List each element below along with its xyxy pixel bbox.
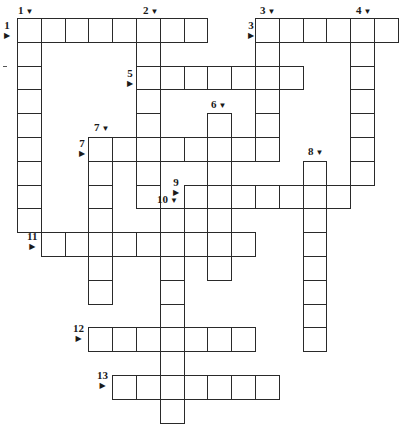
grid-cell[interactable] bbox=[160, 208, 185, 233]
grid-cell[interactable] bbox=[255, 137, 280, 162]
grid-cell[interactable] bbox=[279, 66, 304, 91]
grid-cell[interactable] bbox=[231, 137, 256, 162]
grid-cell[interactable] bbox=[207, 208, 232, 233]
grid-cell[interactable] bbox=[136, 327, 161, 352]
grid-cell[interactable] bbox=[88, 208, 113, 233]
grid-cell[interactable] bbox=[41, 232, 66, 257]
grid-cell[interactable] bbox=[207, 161, 232, 186]
grid-cell[interactable] bbox=[303, 304, 328, 329]
grid-cell[interactable] bbox=[17, 66, 42, 91]
grid-cell[interactable] bbox=[255, 185, 280, 210]
grid-cell[interactable] bbox=[17, 89, 42, 114]
grid-cell[interactable] bbox=[65, 18, 90, 43]
grid-cell[interactable] bbox=[184, 375, 209, 400]
grid-cell[interactable] bbox=[136, 66, 161, 91]
grid-cell[interactable] bbox=[160, 66, 185, 91]
grid-cell[interactable] bbox=[184, 66, 209, 91]
grid-cell[interactable] bbox=[112, 18, 137, 43]
grid-cell[interactable] bbox=[184, 18, 209, 43]
grid-cell[interactable] bbox=[17, 137, 42, 162]
grid-cell[interactable] bbox=[350, 161, 375, 186]
grid-cell[interactable] bbox=[207, 256, 232, 281]
grid-cell[interactable] bbox=[207, 137, 232, 162]
grid-cell[interactable] bbox=[303, 256, 328, 281]
grid-cell[interactable] bbox=[136, 42, 161, 67]
grid-cell[interactable] bbox=[231, 232, 256, 257]
grid-cell[interactable] bbox=[160, 375, 185, 400]
grid-cell[interactable] bbox=[112, 232, 137, 257]
grid-cell[interactable] bbox=[303, 232, 328, 257]
grid-cell[interactable] bbox=[303, 280, 328, 305]
grid-cell[interactable] bbox=[17, 113, 42, 138]
grid-cell[interactable] bbox=[160, 256, 185, 281]
grid-cell[interactable] bbox=[184, 327, 209, 352]
grid-cell[interactable] bbox=[65, 232, 90, 257]
grid-cell[interactable] bbox=[303, 18, 328, 43]
grid-cell[interactable] bbox=[303, 185, 328, 210]
grid-cell[interactable] bbox=[279, 185, 304, 210]
grid-cell[interactable] bbox=[160, 399, 185, 424]
grid-cell[interactable] bbox=[160, 280, 185, 305]
grid-cell[interactable] bbox=[88, 327, 113, 352]
grid-cell[interactable] bbox=[136, 89, 161, 114]
grid-cell[interactable] bbox=[160, 18, 185, 43]
grid-cell[interactable] bbox=[350, 42, 375, 67]
grid-cell[interactable] bbox=[184, 232, 209, 257]
grid-cell[interactable] bbox=[88, 232, 113, 257]
grid-cell[interactable] bbox=[41, 18, 66, 43]
grid-cell[interactable] bbox=[255, 66, 280, 91]
grid-cell[interactable] bbox=[17, 18, 42, 43]
grid-cell[interactable] bbox=[350, 66, 375, 91]
grid-cell[interactable] bbox=[231, 375, 256, 400]
grid-cell[interactable] bbox=[160, 232, 185, 257]
grid-cell[interactable] bbox=[112, 327, 137, 352]
grid-cell[interactable] bbox=[136, 161, 161, 186]
grid-cell[interactable] bbox=[17, 185, 42, 210]
grid-cell[interactable] bbox=[350, 18, 375, 43]
grid-cell[interactable] bbox=[326, 18, 351, 43]
grid-cell[interactable] bbox=[255, 18, 280, 43]
grid-cell[interactable] bbox=[255, 113, 280, 138]
grid-cell[interactable] bbox=[207, 232, 232, 257]
grid-cell[interactable] bbox=[136, 137, 161, 162]
grid-cell[interactable] bbox=[207, 185, 232, 210]
grid-cell[interactable] bbox=[279, 18, 304, 43]
grid-cell[interactable] bbox=[17, 161, 42, 186]
grid-cell[interactable] bbox=[160, 327, 185, 352]
grid-cell[interactable] bbox=[184, 137, 209, 162]
grid-cell[interactable] bbox=[112, 375, 137, 400]
grid-cell[interactable] bbox=[350, 113, 375, 138]
grid-cell[interactable] bbox=[136, 232, 161, 257]
grid-cell[interactable] bbox=[207, 113, 232, 138]
grid-cell[interactable] bbox=[231, 66, 256, 91]
grid-cell[interactable] bbox=[136, 113, 161, 138]
grid-cell[interactable] bbox=[160, 351, 185, 376]
grid-cell[interactable] bbox=[136, 375, 161, 400]
grid-cell[interactable] bbox=[374, 18, 399, 43]
grid-cell[interactable] bbox=[231, 185, 256, 210]
grid-cell[interactable] bbox=[17, 42, 42, 67]
grid-cell[interactable] bbox=[88, 161, 113, 186]
grid-cell[interactable] bbox=[88, 280, 113, 305]
grid-cell[interactable] bbox=[231, 327, 256, 352]
grid-cell[interactable] bbox=[88, 185, 113, 210]
grid-cell[interactable] bbox=[88, 256, 113, 281]
grid-cell[interactable] bbox=[160, 304, 185, 329]
grid-cell[interactable] bbox=[88, 137, 113, 162]
grid-cell[interactable] bbox=[160, 137, 185, 162]
grid-cell[interactable] bbox=[184, 185, 209, 210]
grid-cell[interactable] bbox=[326, 185, 351, 210]
grid-cell[interactable] bbox=[88, 18, 113, 43]
grid-cell[interactable] bbox=[207, 375, 232, 400]
grid-cell[interactable] bbox=[255, 89, 280, 114]
grid-cell[interactable] bbox=[136, 18, 161, 43]
grid-cell[interactable] bbox=[303, 161, 328, 186]
grid-cell[interactable] bbox=[303, 327, 328, 352]
grid-cell[interactable] bbox=[112, 137, 137, 162]
grid-cell[interactable] bbox=[207, 327, 232, 352]
grid-cell[interactable] bbox=[255, 375, 280, 400]
grid-cell[interactable] bbox=[350, 89, 375, 114]
grid-cell[interactable] bbox=[207, 66, 232, 91]
grid-cell[interactable] bbox=[255, 42, 280, 67]
grid-cell[interactable] bbox=[350, 137, 375, 162]
